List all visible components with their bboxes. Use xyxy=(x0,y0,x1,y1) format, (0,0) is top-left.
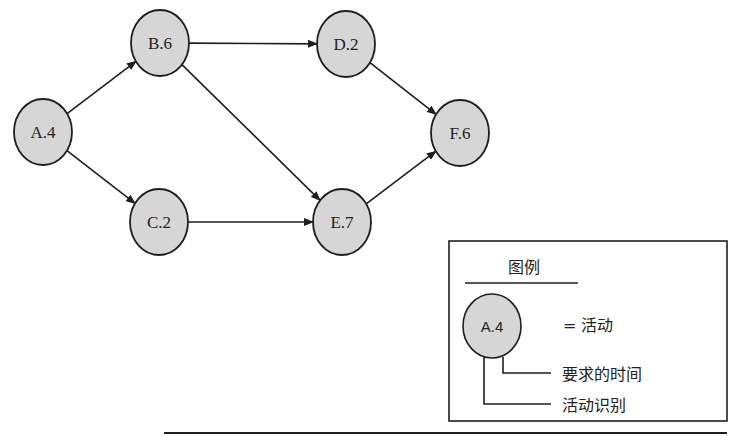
edge-b-to-d xyxy=(189,43,317,44)
activity-network-figure: A.4B.6C.2D.2E.7F.6 图例 A.4 = 活动 要求的时间 活动识… xyxy=(0,0,738,436)
edges xyxy=(67,43,436,222)
node-d: D.2 xyxy=(317,11,375,77)
node-label: D.2 xyxy=(333,35,358,54)
edge-d-to-f xyxy=(370,63,436,115)
node-label: E.7 xyxy=(330,213,354,232)
node-b: B.6 xyxy=(131,10,189,76)
node-label: B.6 xyxy=(148,34,172,53)
node-label: C.2 xyxy=(147,213,171,232)
legend-time-label: 要求的时间 xyxy=(562,365,642,384)
legend-sample-node-label: A.4 xyxy=(481,318,504,335)
legend-title: 图例 xyxy=(508,258,540,277)
edge-a-to-c xyxy=(67,151,135,204)
node-e: E.7 xyxy=(313,189,371,255)
node-label: F.6 xyxy=(450,124,471,143)
node-a: A.4 xyxy=(14,99,72,165)
diagram-canvas: A.4B.6C.2D.2E.7F.6 图例 A.4 = 活动 要求的时间 活动识… xyxy=(0,0,738,436)
edge-a-to-b xyxy=(67,61,136,113)
edge-b-to-e xyxy=(182,65,320,201)
node-f: F.6 xyxy=(431,100,489,166)
edge-e-to-f xyxy=(366,151,436,204)
node-c: C.2 xyxy=(130,189,188,255)
legend-id-label: 活动识别 xyxy=(562,396,626,415)
node-label: A.4 xyxy=(30,123,56,142)
legend-equals-activity: = 活动 xyxy=(563,316,614,335)
legend: 图例 A.4 = 活动 要求的时间 活动识别 xyxy=(449,241,727,421)
